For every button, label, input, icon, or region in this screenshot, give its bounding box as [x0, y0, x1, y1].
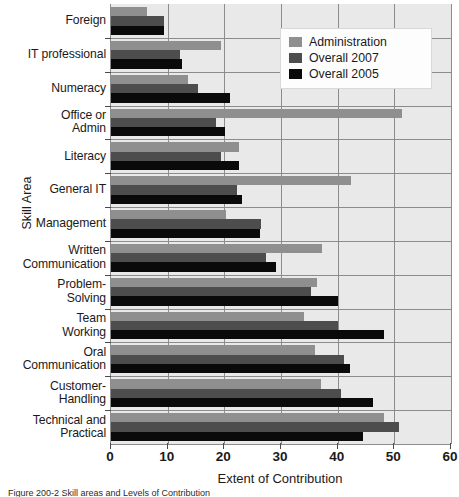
- y-axis-category-label: Written Communication: [0, 244, 106, 271]
- bar: [111, 16, 164, 25]
- y-axis-category-label: Management: [0, 217, 106, 230]
- legend-swatch-overall-2007: [289, 53, 302, 63]
- y-axis-category-label: Literacy: [0, 150, 106, 163]
- bar: [111, 109, 402, 118]
- bar-group: [111, 379, 451, 407]
- bar: [111, 345, 315, 354]
- bar: [111, 84, 198, 93]
- x-axis-tick-mark: [167, 443, 168, 449]
- bar: [111, 389, 341, 398]
- bar: [111, 413, 384, 422]
- bar: [111, 422, 399, 431]
- bar: [111, 312, 304, 321]
- bar-group: [111, 413, 451, 441]
- bar: [111, 330, 384, 339]
- y-axis-category-label: Technical and Practical: [0, 414, 106, 441]
- bar: [111, 253, 266, 262]
- bar: [111, 185, 237, 194]
- bar: [111, 161, 239, 170]
- y-axis-category-label: Foreign: [0, 14, 106, 27]
- y-axis-tick: [105, 173, 111, 174]
- chart-container: Skill Area ForeignIT professionalNumerac…: [0, 0, 459, 497]
- y-axis-tick: [105, 72, 111, 73]
- y-axis-tick: [105, 241, 111, 242]
- y-axis-tick: [105, 410, 111, 411]
- bar-group: [111, 176, 451, 204]
- figure-caption: Figure 200-2 Skill areas and Levels of C…: [8, 488, 458, 497]
- gridline-horizontal: [111, 173, 451, 174]
- bar-group: [111, 109, 451, 137]
- x-axis-tick-label: 60: [430, 449, 459, 464]
- legend-label-overall-2005: Overall 2005: [309, 68, 379, 81]
- gridline-horizontal: [111, 309, 451, 310]
- bar-group: [111, 244, 451, 272]
- chart-legend: Administration Overall 2007 Overall 2005: [280, 28, 432, 89]
- legend-item-overall-2005: Overall 2005: [289, 66, 425, 82]
- y-axis-tick: [105, 376, 111, 377]
- x-axis-tick-mark: [223, 443, 224, 449]
- y-axis-category-label: Office or Admin: [0, 109, 106, 136]
- y-axis-tick: [105, 342, 111, 343]
- bar-group: [111, 345, 451, 373]
- legend-item-administration: Administration: [289, 34, 425, 50]
- y-axis-tick: [105, 139, 111, 140]
- x-axis-tick-labels: 0102030405060: [110, 449, 450, 467]
- bar: [111, 176, 351, 185]
- x-axis-tick-mark: [110, 443, 111, 449]
- bar-group: [111, 142, 451, 170]
- bar: [111, 75, 188, 84]
- x-axis-tick-mark: [280, 443, 281, 449]
- x-axis-tick-label: 30: [260, 449, 300, 464]
- bar: [111, 152, 221, 161]
- bar: [111, 7, 147, 16]
- y-axis-category-label: IT professional: [0, 48, 106, 61]
- gridline-horizontal: [111, 139, 451, 140]
- bar: [111, 287, 311, 296]
- x-axis-tick-label: 0: [90, 449, 130, 464]
- bar: [111, 364, 350, 373]
- gridline-horizontal: [111, 275, 451, 276]
- legend-label-administration: Administration: [309, 36, 387, 49]
- legend-label-overall-2007: Overall 2007: [309, 52, 379, 65]
- bar: [111, 244, 322, 253]
- bar: [111, 127, 225, 136]
- x-axis-tick-label: 40: [317, 449, 357, 464]
- bar: [111, 398, 373, 407]
- bar: [111, 41, 221, 50]
- bar: [111, 93, 230, 102]
- x-axis-tick-label: 10: [147, 449, 187, 464]
- gridline-horizontal: [111, 207, 451, 208]
- bar: [111, 59, 182, 68]
- gridline-horizontal: [111, 106, 451, 107]
- legend-swatch-overall-2005: [289, 69, 302, 79]
- bar: [111, 50, 180, 59]
- x-axis-tick-mark: [393, 443, 394, 449]
- y-axis-tick: [105, 309, 111, 310]
- bar: [111, 432, 363, 441]
- y-axis-tick: [105, 207, 111, 208]
- bar-group: [111, 312, 451, 340]
- bar: [111, 296, 338, 305]
- gridline-horizontal: [111, 376, 451, 377]
- y-axis-category-label: Problem- Solving: [0, 278, 106, 305]
- y-axis-category-label: General IT: [0, 183, 106, 196]
- gridline-horizontal: [111, 410, 451, 411]
- bar: [111, 355, 344, 364]
- y-axis-category-label: Team Working: [0, 312, 106, 339]
- y-axis-category-label: Customer- Handling: [0, 380, 106, 407]
- bar-group: [111, 210, 451, 238]
- bar: [111, 278, 317, 287]
- bar: [111, 118, 216, 127]
- gridline-horizontal: [111, 241, 451, 242]
- bar: [111, 262, 276, 271]
- gridline-horizontal: [111, 342, 451, 343]
- y-axis-tick: [105, 275, 111, 276]
- bar: [111, 219, 261, 228]
- y-axis-category-label: Numeracy: [0, 82, 106, 95]
- bar: [111, 379, 321, 388]
- legend-swatch-administration: [289, 37, 302, 47]
- gridline-vertical: [451, 4, 452, 444]
- bar: [111, 210, 226, 219]
- bar: [111, 321, 338, 330]
- x-axis-tick-mark: [337, 443, 338, 449]
